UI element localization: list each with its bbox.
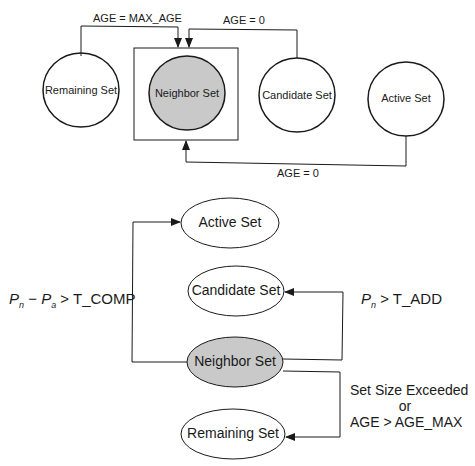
bottom-active-label: Active Set bbox=[198, 214, 261, 230]
edge-neighbor-to-candidate bbox=[283, 292, 343, 360]
t-comp-text: > T_COMP bbox=[56, 290, 135, 307]
bottom-diagram bbox=[132, 198, 343, 459]
edge-label-t-comp: Pn − Pa > T_COMP bbox=[9, 290, 136, 310]
edge-label-max-age: AGE = MAX_AGE bbox=[93, 12, 182, 24]
condition-line-3: AGE > AGE_MAX bbox=[350, 414, 460, 430]
condition-line-1: Set Size Exceeded bbox=[350, 382, 460, 398]
minus-sign: − bbox=[24, 290, 41, 307]
edge-label-active-age: AGE = 0 bbox=[277, 167, 319, 179]
bottom-remaining-label: Remaining Set bbox=[187, 425, 279, 441]
top-active-label: Active Set bbox=[381, 92, 431, 104]
edge-label-t-add: Pn > T_ADD bbox=[361, 290, 442, 310]
edge-label-candidate-age: AGE = 0 bbox=[223, 14, 265, 26]
condition-line-2: or bbox=[350, 398, 460, 414]
top-remaining-label: Remaining Set bbox=[45, 84, 117, 96]
top-neighbor-label: Neighbor Set bbox=[155, 87, 219, 99]
bottom-candidate-label: Candidate Set bbox=[192, 282, 281, 298]
edge-label-remaining-condition: Set Size Exceeded or AGE > AGE_MAX bbox=[350, 382, 460, 430]
edge-neighbor-to-remaining bbox=[283, 371, 340, 437]
pn-symbol: P bbox=[361, 290, 371, 307]
bottom-neighbor-label: Neighbor Set bbox=[194, 353, 276, 369]
pn-symbol: P bbox=[9, 290, 19, 307]
edge-candidate-to-neighbor bbox=[189, 29, 297, 58]
edge-neighbor-to-active bbox=[132, 222, 187, 362]
edge-remaining-to-neighbor bbox=[81, 26, 178, 56]
t-add-text: > T_ADD bbox=[376, 290, 442, 307]
top-candidate-label: Candidate Set bbox=[262, 89, 332, 101]
pa-symbol: P bbox=[41, 290, 51, 307]
